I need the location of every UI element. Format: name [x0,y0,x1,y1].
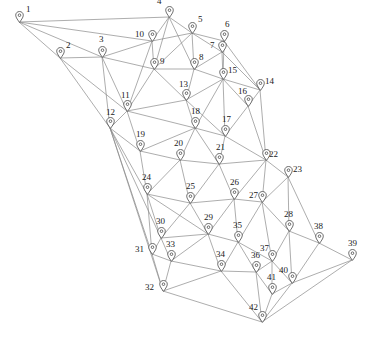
map-pin-icon[interactable] [190,58,199,70]
node-label: 25 [186,182,195,191]
graph-edge [219,160,266,164]
map-pin-icon[interactable] [123,100,132,112]
node-label: 39 [348,239,357,248]
graph-edge [163,271,221,291]
node-label: 21 [216,143,225,152]
map-pin-icon[interactable] [285,220,294,232]
map-pin-icon[interactable] [56,47,65,59]
map-pin-icon[interactable] [15,11,24,23]
map-pin-icon[interactable] [191,117,200,129]
graph-edge [19,22,152,41]
graph-edge [140,128,195,151]
node-label: 6 [225,20,230,29]
node-label: 34 [216,250,225,259]
node-label: 5 [198,15,203,24]
map-pin-icon[interactable] [98,46,107,58]
map-pin-icon[interactable] [159,280,168,292]
graph-edge [161,234,208,238]
node-label: 30 [156,217,165,226]
graph-edge [60,58,127,111]
graph-edge [140,151,180,160]
graph-edge [171,234,208,261]
map-pin-icon[interactable] [167,250,176,262]
graph-edge [190,199,234,203]
node-label: 7 [210,41,215,50]
map-pin-icon[interactable] [217,260,226,272]
node-label: 4 [157,0,162,6]
map-pin-icon[interactable] [106,117,115,129]
map-pin-icon[interactable] [204,223,213,235]
map-pin-icon[interactable] [258,311,267,323]
map-pin-icon[interactable] [234,231,243,243]
graph-edge [60,57,102,58]
map-pin-icon[interactable] [348,249,357,261]
node-label: 41 [267,273,276,282]
node-label: 38 [314,222,323,231]
node-label: 29 [204,213,213,222]
map-pin-icon[interactable] [230,188,239,200]
map-pin-icon[interactable] [136,140,145,152]
graph-edge [180,160,219,164]
map-pin-icon[interactable] [268,283,277,295]
map-pin-icon[interactable] [157,227,166,239]
map-pin-icon[interactable] [165,6,174,18]
map-pin-icon[interactable] [221,125,230,137]
node-label: 31 [135,245,144,254]
graph-edge [163,291,262,322]
node-label: 17 [222,115,231,124]
map-pin-icon[interactable] [186,192,195,204]
map-pin-icon[interactable] [176,149,185,161]
node-label: 14 [265,77,274,86]
node-label: 32 [145,283,154,292]
node-label: 28 [284,210,293,219]
graph-edge [127,100,186,111]
node-label: 23 [293,165,302,174]
node-label: 20 [174,139,183,148]
graph-edge [152,33,192,41]
node-label: 13 [179,80,188,89]
graph-edge [102,41,152,57]
graph-edge [225,136,266,160]
graph-edge [171,261,221,271]
map-pin-icon[interactable] [215,153,224,165]
map-pin-icon[interactable] [150,58,159,70]
map-pin-icon[interactable] [148,243,157,255]
graph-edge [221,271,262,322]
map-pin-icon[interactable] [188,22,197,34]
map-pin-icon[interactable] [256,79,265,91]
map-pin-icon[interactable] [315,232,324,244]
node-label: 16 [238,87,247,96]
node-label: 3 [99,35,104,44]
map-pin-icon[interactable] [218,41,227,53]
node-label: 19 [136,130,145,139]
node-label: 10 [135,30,144,39]
node-label: 40 [279,266,288,275]
map-pin-icon[interactable] [252,261,261,273]
node-label: 26 [230,178,239,187]
node-label: 1 [26,5,31,14]
graph-edge [60,58,110,128]
map-pin-icon[interactable] [258,191,267,203]
graph-edge [127,111,195,128]
map-pin-icon[interactable] [288,272,297,284]
map-pin-icon[interactable] [284,166,293,178]
node-label: 8 [199,53,204,62]
node-label: 42 [249,303,258,312]
node-label: 35 [233,221,242,230]
graph-edge [186,79,223,100]
graph-edge [19,22,60,58]
node-label: 22 [269,150,278,159]
map-pin-icon[interactable] [244,95,253,107]
graph-edge [19,17,169,22]
graph-edge [147,160,180,194]
graph-edge [262,283,292,322]
map-pin-icon[interactable] [219,68,228,80]
node-label: 27 [249,191,258,200]
map-pin-icon[interactable] [182,89,191,101]
graph-edge [102,57,154,69]
node-label: 11 [121,91,130,100]
map-pin-icon[interactable] [148,30,157,42]
map-pin-icon[interactable] [143,183,152,195]
node-label: 2 [66,41,71,50]
node-label: 9 [160,57,165,66]
